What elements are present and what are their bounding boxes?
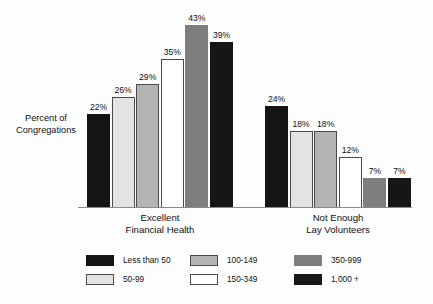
y-axis-title-line1: Percent of bbox=[6, 113, 86, 125]
bar-value-label: 12% bbox=[342, 145, 359, 155]
legend-swatch-50-99 bbox=[86, 274, 114, 285]
bar-value-label: 7% bbox=[369, 166, 381, 176]
bar-value-label: 7% bbox=[393, 166, 405, 176]
bar-wrap-1-000: 7% bbox=[388, 15, 411, 208]
bar-value-label: 26% bbox=[114, 85, 131, 95]
x-axis-baseline bbox=[78, 207, 412, 208]
bar-value-label: 35% bbox=[164, 47, 181, 57]
bar-wrap-350-999: 7% bbox=[363, 15, 386, 208]
bar-wrap-350-999: 43% bbox=[185, 15, 208, 208]
group-caption-line2: Lay Volunteers bbox=[264, 224, 412, 236]
bar-not-enough-lay-volunteers-less-than-50[interactable] bbox=[265, 106, 288, 208]
group-caption-excellent-financial-health: Excellent Financial Health bbox=[86, 212, 234, 236]
legend-label: 100-149 bbox=[227, 255, 257, 266]
bar-wrap-100-149: 18% bbox=[314, 15, 337, 208]
bar-excellent-financial-health-100-149[interactable] bbox=[136, 84, 159, 208]
bar-not-enough-lay-volunteers-50-99[interactable] bbox=[290, 131, 313, 208]
bar-wrap-150-349: 35% bbox=[161, 15, 184, 208]
bar-wrap-150-349: 12% bbox=[339, 15, 362, 208]
legend-item-100-149[interactable]: 100-149 bbox=[190, 253, 257, 268]
legend-item-150-349[interactable]: 150-349 bbox=[190, 272, 257, 287]
legend-swatch-1-000 bbox=[294, 274, 322, 285]
legend-item-50-99[interactable]: 50-99 bbox=[86, 272, 144, 287]
legend-label: Less than 50 bbox=[123, 255, 171, 266]
bar-excellent-financial-health-350-999[interactable] bbox=[185, 25, 208, 208]
legend-label: 1,000 + bbox=[331, 274, 359, 285]
legend-label: 50-99 bbox=[123, 274, 144, 285]
bar-excellent-financial-health-150-349[interactable] bbox=[161, 59, 184, 208]
group-caption-line1: Not Enough bbox=[264, 212, 412, 224]
group-caption-line2: Financial Health bbox=[86, 224, 234, 236]
bar-wrap-50-99: 18% bbox=[290, 15, 313, 208]
legend-item-1-000[interactable]: 1,000 + bbox=[294, 272, 359, 287]
bar-not-enough-lay-volunteers-100-149[interactable] bbox=[314, 131, 337, 208]
plot-area: 22%26%29%35%43%39%24%18%18%12%7%7% bbox=[78, 14, 412, 208]
y-axis-title-line2: Congregations bbox=[6, 125, 86, 137]
legend-item-350-999[interactable]: 350-999 bbox=[294, 253, 361, 268]
bar-not-enough-lay-volunteers-150-349[interactable] bbox=[339, 157, 362, 208]
bar-value-label: 22% bbox=[90, 102, 107, 112]
bar-value-label: 39% bbox=[213, 30, 230, 40]
legend-row: 50-99150-3491,000 + bbox=[86, 272, 386, 291]
bar-value-label: 43% bbox=[188, 13, 205, 23]
bar-not-enough-lay-volunteers-350-999[interactable] bbox=[363, 178, 386, 208]
bar-value-label: 18% bbox=[292, 119, 309, 129]
legend-item-less-than-50[interactable]: Less than 50 bbox=[86, 253, 171, 268]
bar-value-label: 29% bbox=[139, 72, 156, 82]
legend-row: Less than 50100-149350-999 bbox=[86, 253, 386, 272]
legend-label: 350-999 bbox=[331, 255, 361, 266]
bar-value-label: 18% bbox=[317, 119, 334, 129]
legend-swatch-150-349 bbox=[190, 274, 218, 285]
bar-excellent-financial-health-less-than-50[interactable] bbox=[87, 114, 110, 208]
bar-chart: Percent of Congregations 22%26%29%35%43%… bbox=[0, 0, 433, 304]
bar-wrap-less-than-50: 24% bbox=[265, 15, 288, 208]
bar-value-label: 24% bbox=[268, 94, 285, 104]
chart-legend: Less than 50100-149350-99950-99150-3491,… bbox=[86, 253, 386, 291]
legend-swatch-100-149 bbox=[190, 255, 218, 266]
legend-label: 150-349 bbox=[227, 274, 257, 285]
group-caption-not-enough-lay-volunteers: Not Enough Lay Volunteers bbox=[264, 212, 412, 236]
bar-wrap-50-99: 26% bbox=[112, 15, 135, 208]
bar-not-enough-lay-volunteers-1-000[interactable] bbox=[388, 178, 411, 208]
bar-wrap-100-149: 29% bbox=[136, 15, 159, 208]
group-caption-line1: Excellent bbox=[86, 212, 234, 224]
bar-excellent-financial-health-1-000[interactable] bbox=[210, 42, 233, 208]
legend-swatch-350-999 bbox=[294, 255, 322, 266]
bar-excellent-financial-health-50-99[interactable] bbox=[112, 97, 135, 208]
y-axis-title: Percent of Congregations bbox=[6, 113, 86, 136]
legend-swatch-less-than-50 bbox=[86, 255, 114, 266]
bar-wrap-1-000: 39% bbox=[210, 15, 233, 208]
bar-wrap-less-than-50: 22% bbox=[87, 15, 110, 208]
